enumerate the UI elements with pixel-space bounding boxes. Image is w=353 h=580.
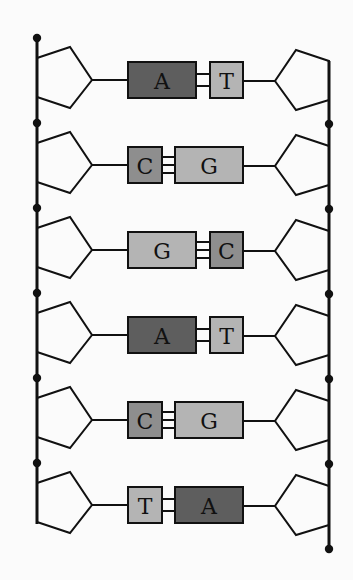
phosphate-dot <box>33 459 41 467</box>
left-sugar-pentagon <box>37 472 92 533</box>
right-base-label: T <box>219 69 234 94</box>
phosphate-dot <box>325 290 333 298</box>
base-pair-rung: AT <box>37 47 329 110</box>
right-base-label: G <box>200 154 218 179</box>
left-base-label: A <box>153 69 171 94</box>
right-base-label: C <box>218 239 235 264</box>
base-pair-rung: CG <box>37 132 329 195</box>
base-pair-rung: CG <box>37 387 329 450</box>
left-sugar-phosphate-backbone <box>33 34 41 524</box>
base-pair-rungs: ATCGGCATCGTA <box>37 47 329 535</box>
left-base-label: A <box>153 324 171 349</box>
phosphate-dot <box>325 205 333 213</box>
right-base-label: T <box>219 324 234 349</box>
base-pair-rung: AT <box>37 302 329 365</box>
phosphate-dot <box>33 204 41 212</box>
left-sugar-pentagon <box>37 47 92 108</box>
left-base-label: G <box>153 239 171 264</box>
right-sugar-pentagon <box>275 135 329 195</box>
base-pair-rung: GC <box>37 217 329 280</box>
left-sugar-pentagon <box>37 217 92 278</box>
left-sugar-pentagon <box>37 387 92 448</box>
left-base-label: C <box>137 154 154 179</box>
right-base-label: A <box>200 494 218 519</box>
right-sugar-pentagon <box>275 305 329 365</box>
right-sugar-pentagon <box>275 50 329 110</box>
phosphate-dot <box>325 460 333 468</box>
right-sugar-pentagon <box>275 220 329 280</box>
right-sugar-pentagon <box>275 475 329 535</box>
left-sugar-pentagon <box>37 132 92 193</box>
phosphate-dot <box>33 119 41 127</box>
left-base-label: T <box>138 494 153 519</box>
dna-diagram: ATCGGCATCGTA <box>0 0 353 580</box>
right-sugar-pentagon <box>275 390 329 450</box>
phosphate-dot <box>33 34 41 42</box>
phosphate-dot <box>325 375 333 383</box>
right-base-label: G <box>200 409 218 434</box>
left-sugar-pentagon <box>37 302 92 363</box>
phosphate-dot <box>325 120 333 128</box>
phosphate-dot <box>325 545 333 553</box>
base-pair-rung: TA <box>37 472 329 535</box>
phosphate-dot <box>33 289 41 297</box>
phosphate-dot <box>33 374 41 382</box>
left-base-label: C <box>137 409 154 434</box>
right-sugar-phosphate-backbone <box>325 61 333 553</box>
